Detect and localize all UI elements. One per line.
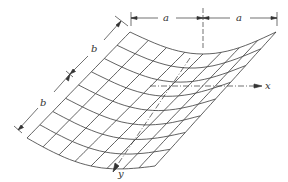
x-axis-label: x (265, 80, 271, 91)
label-a-right: a (236, 12, 242, 23)
grid-line (53, 112, 186, 140)
grid-line (40, 125, 170, 154)
saddle-surface-diagram: a a b b x y (0, 0, 288, 182)
grid-line (117, 45, 261, 68)
dimension-b (14, 16, 128, 133)
label-b-upper: b (91, 43, 97, 54)
y-axis-label: y (117, 168, 124, 179)
surface-grid (27, 32, 276, 169)
x-axis (150, 84, 262, 88)
grid-line (79, 85, 216, 111)
label-b-lower: b (40, 97, 46, 108)
label-a-left: a (163, 12, 169, 23)
grid-line (66, 98, 201, 125)
